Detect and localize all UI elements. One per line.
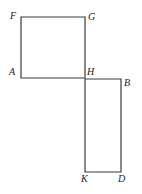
- vertex-label-A: A: [9, 67, 15, 77]
- vertex-label-G: G: [88, 12, 95, 22]
- vertex-label-F: F: [10, 11, 16, 21]
- vertex-label-H: H: [87, 67, 94, 77]
- vertex-label-K: K: [81, 174, 88, 184]
- vertex-label-B: B: [124, 78, 130, 88]
- upper-square-FGHA: [21, 17, 85, 78]
- geometry-figure: F G A H B K D: [0, 0, 142, 194]
- vertex-label-D: D: [118, 174, 125, 184]
- lower-rectangle-HBDK: [85, 79, 121, 172]
- figure-canvas: [0, 0, 142, 194]
